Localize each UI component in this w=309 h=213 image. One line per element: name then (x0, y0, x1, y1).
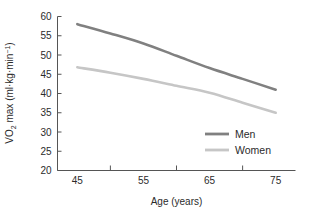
x-axis-tick-labels: 45556575 (72, 175, 282, 186)
series-line-women (77, 67, 275, 112)
chart-canvas: 202530354045505560 45556575 MenWomen Age… (0, 0, 309, 213)
y-axis-tick-label: 35 (40, 107, 52, 118)
series-line-men (77, 24, 275, 89)
x-axis-tick-label: 45 (72, 175, 84, 186)
x-axis-ticks (110, 166, 242, 171)
y-axis-tick-label: 40 (40, 88, 52, 99)
chart-legend: MenWomen (205, 128, 271, 156)
x-axis-tick-label: 65 (204, 175, 216, 186)
y-axis-tick-label: 45 (40, 69, 52, 80)
legend-label-women: Women (235, 144, 271, 156)
y-axis-tick-label: 55 (40, 30, 52, 41)
legend-label-men: Men (235, 128, 256, 140)
vo2max-age-line-chart: 202530354045505560 45556575 MenWomen Age… (0, 0, 309, 213)
x-axis-title: Age (years) (151, 196, 203, 207)
y-axis-tick-label: 20 (40, 165, 52, 176)
y-axis-title: VO2 max (ml·kg·min−1) (4, 42, 17, 143)
x-axis-tick-label: 75 (270, 175, 282, 186)
y-axis-tick-label: 60 (40, 11, 52, 22)
data-series-group (77, 24, 275, 113)
x-axis-tick-label: 55 (138, 175, 150, 186)
y-axis-ticks (58, 17, 62, 171)
y-axis-tick-labels: 202530354045505560 (40, 11, 52, 176)
y-axis-tick-label: 50 (40, 50, 52, 61)
y-axis-tick-label: 30 (40, 127, 52, 138)
y-axis-tick-label: 25 (40, 146, 52, 157)
